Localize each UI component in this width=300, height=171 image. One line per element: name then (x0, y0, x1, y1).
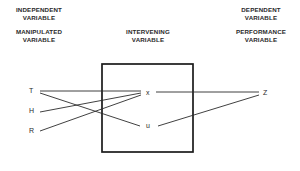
node-label-T: T (29, 87, 33, 94)
diagram-graphics (0, 0, 300, 171)
node-label-x: x (146, 89, 150, 96)
edge-R-to-x (40, 95, 141, 131)
node-label-H: H (29, 107, 34, 114)
node-label-Z: Z (263, 89, 267, 96)
node-label-R: R (29, 127, 34, 134)
edge-H-to-x (40, 93, 141, 112)
intervening-variable-box (102, 64, 193, 152)
diagram-canvas: INDEPENDENT VARIABLE MANIPULATED VARIABL… (0, 0, 300, 171)
node-label-u: u (146, 122, 150, 129)
edge-u-to-Z (158, 95, 259, 126)
